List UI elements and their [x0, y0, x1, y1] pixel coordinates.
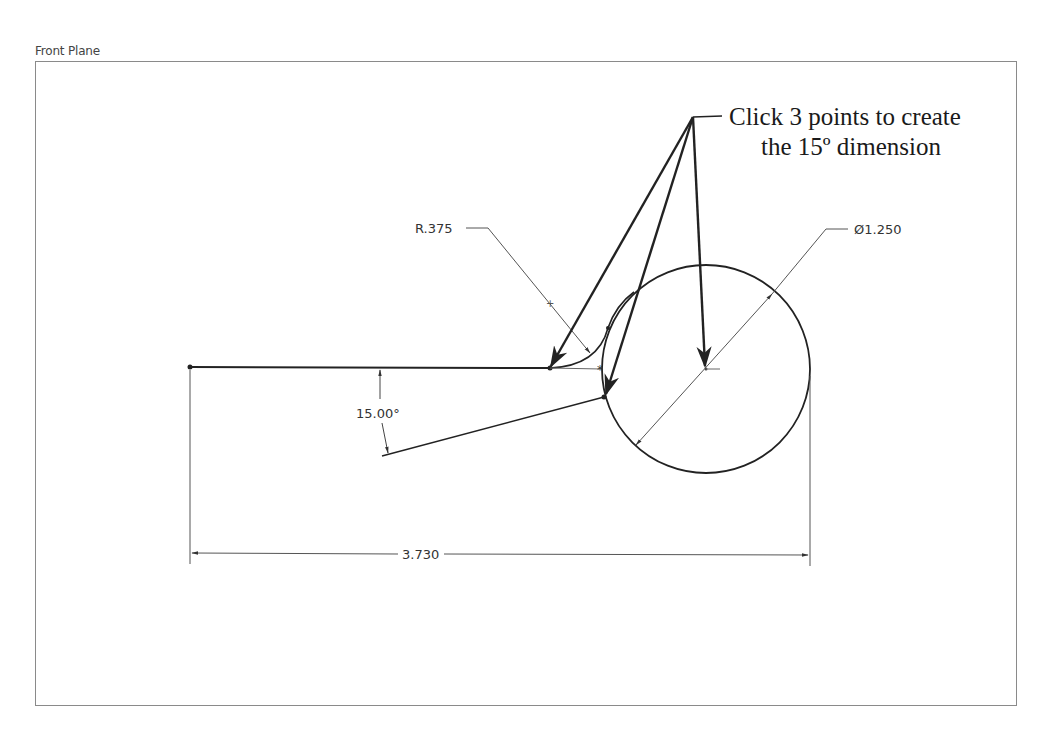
- angle-dimension[interactable]: 15.00°: [356, 406, 400, 421]
- angle-arrow-lower: [382, 423, 388, 453]
- callout-line-1: Click 3 points to create: [729, 103, 961, 130]
- tangent-arc[interactable]: [550, 292, 634, 368]
- radius-mark: +: [546, 298, 554, 309]
- length-dimension[interactable]: 3.730: [402, 547, 439, 562]
- angled-line-endpoint[interactable]: [602, 395, 607, 400]
- sketch-geometry: *: [188, 265, 811, 473]
- diameter-dimension[interactable]: Ø1.250: [854, 222, 901, 237]
- radius-leader: [488, 228, 590, 353]
- diameter-leader: [772, 229, 826, 294]
- callout-arrow-3: [693, 117, 705, 366]
- callout-arrow-2: [606, 117, 693, 394]
- callout-arrows: [551, 116, 722, 394]
- angled-line[interactable]: [382, 397, 604, 456]
- dimensions: + R.375 Ø1.250 15.00° 3.730: [190, 221, 901, 566]
- sketch-canvas[interactable]: * + R.375 Ø1.250 15.00° 3.730: [0, 0, 1057, 739]
- construction-line: [550, 368, 601, 369]
- left-endpoint[interactable]: [188, 365, 193, 370]
- callout-line-2: the 15º dimension: [761, 133, 941, 160]
- horizontal-line[interactable]: [190, 367, 550, 368]
- callout-arrow-1: [551, 117, 693, 366]
- diameter-line: [636, 294, 772, 445]
- radius-dimension[interactable]: R.375: [415, 221, 453, 236]
